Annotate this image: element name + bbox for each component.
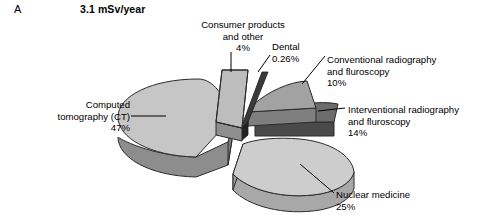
- callout-ct-line2: tomography (CT): [20, 111, 130, 123]
- callout-conventional-radiography: Conventional radiography and fluroscopy …: [327, 54, 479, 89]
- callout-ct-line1: Computed: [20, 99, 130, 111]
- callout-nuclear-medicine: Nuclear medicine 25%: [336, 189, 466, 212]
- callout-nuclear-line1: Nuclear medicine: [336, 189, 466, 201]
- callout-conventional-line2: and fluroscopy: [327, 66, 479, 78]
- leader-line-dental: [258, 55, 270, 72]
- callout-interventional-radiography: Interventional radiography and fluroscop…: [348, 104, 486, 139]
- callout-computed-tomography: Computed tomography (CT) 47%: [20, 99, 130, 134]
- callout-ct-value: 47%: [20, 122, 130, 134]
- callout-conventional-line1: Conventional radiography: [327, 54, 479, 66]
- callout-dental-line1: Dental: [272, 41, 320, 53]
- callout-conventional-value: 10%: [327, 77, 479, 89]
- callout-consumer-line1: Consumer products: [196, 19, 290, 31]
- figure-panel-a: A 3.1 mSv/year: [0, 0, 488, 224]
- callout-dental-value: 0.26%: [272, 53, 320, 65]
- callout-nuclear-value: 25%: [336, 201, 466, 213]
- callout-interventional-value: 14%: [348, 127, 486, 139]
- callout-interventional-line1: Interventional radiography: [348, 104, 486, 116]
- pie-slice-computed-tomography[interactable]: [118, 79, 232, 177]
- callout-dental: Dental 0.26%: [272, 41, 320, 64]
- callout-interventional-line2: and fluroscopy: [348, 116, 486, 128]
